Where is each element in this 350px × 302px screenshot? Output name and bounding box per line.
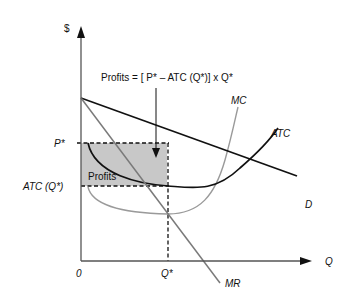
x-axis-arrow-icon: [300, 257, 312, 265]
monopoly-profit-diagram: $ Q 0 P* ATC (Q*) Q* MC ATC D MR Profits…: [0, 0, 350, 302]
mr-label: MR: [225, 278, 241, 289]
origin-label: 0: [76, 268, 82, 279]
y-axis-label: $: [64, 23, 70, 34]
demand-label: D: [305, 199, 312, 210]
x-axis-label: Q: [325, 256, 333, 267]
y-axis-arrow-icon: [77, 26, 85, 38]
q-star-label: Q*: [161, 268, 174, 279]
p-star-label: P*: [54, 138, 66, 149]
profit-area-label: Profits: [88, 171, 116, 182]
mr-curve: [81, 98, 220, 283]
profits-formula-annotation: Profits = [ P* – ATC (Q*)] x Q*: [101, 72, 233, 83]
atc-label: ATC: [270, 128, 291, 139]
mc-label: MC: [231, 95, 247, 106]
atc-q-star-label: ATC (Q*): [22, 181, 63, 192]
